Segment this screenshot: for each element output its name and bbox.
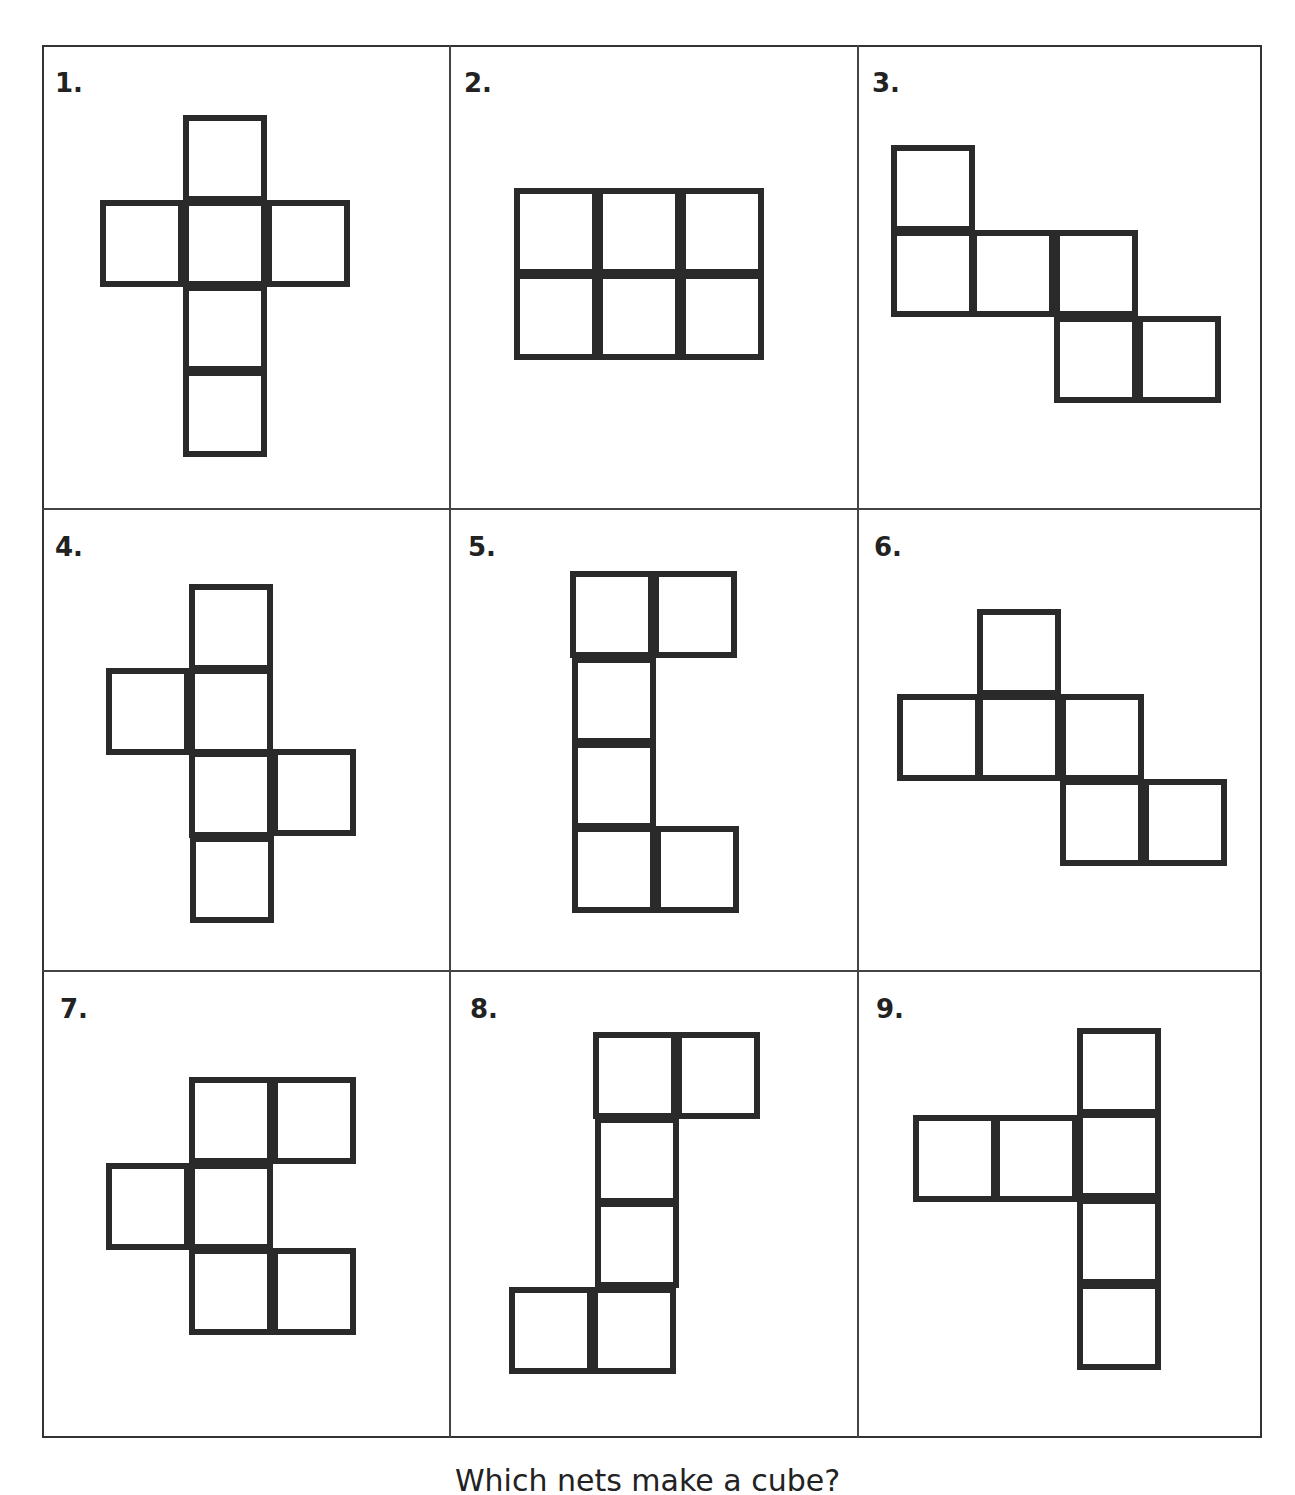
panel-label: 8. [470, 994, 498, 1024]
net-square [189, 668, 273, 755]
question-text: Which nets make a cube? [0, 1463, 1295, 1495]
panel-label: 3. [872, 68, 900, 98]
net-square [183, 370, 267, 457]
net-square [1054, 230, 1138, 317]
net-square [100, 200, 184, 287]
column-divider [857, 45, 859, 1438]
net-square [655, 826, 739, 913]
net-square [183, 200, 267, 287]
net-square [592, 1287, 676, 1374]
net-square [897, 694, 981, 781]
net-square [1137, 316, 1221, 403]
net-square [971, 230, 1055, 317]
net-square [994, 1115, 1078, 1202]
net-square [572, 742, 656, 829]
net-square [189, 584, 273, 671]
net-square [514, 188, 598, 275]
net-square [676, 1032, 760, 1119]
net-square [1054, 316, 1138, 403]
net-square [570, 571, 654, 658]
net-square [913, 1115, 997, 1202]
net-square [595, 1117, 679, 1204]
panel-label: 9. [876, 994, 904, 1024]
net-square [514, 273, 598, 360]
net-square [266, 200, 350, 287]
net-square [106, 1163, 190, 1250]
net-square [977, 609, 1061, 696]
panel-label: 2. [464, 68, 492, 98]
net-square [190, 836, 274, 923]
net-square [597, 273, 681, 360]
net-square [1077, 1112, 1161, 1199]
net-square [595, 1201, 679, 1288]
net-square [891, 145, 975, 232]
panel-label: 4. [55, 532, 83, 562]
panel-label: 6. [874, 532, 902, 562]
column-divider [449, 45, 451, 1438]
net-square [597, 188, 681, 275]
net-square [680, 273, 764, 360]
row-divider [42, 970, 1262, 972]
net-square [189, 1248, 273, 1335]
net-square [891, 230, 975, 317]
net-square [1077, 1198, 1161, 1285]
row-divider [42, 508, 1262, 510]
net-square [572, 826, 656, 913]
net-square [189, 751, 273, 838]
net-square [1060, 779, 1144, 866]
panel-label: 7. [60, 994, 88, 1024]
net-square [1143, 779, 1227, 866]
net-square [106, 668, 190, 755]
panel-label: 1. [55, 68, 83, 98]
net-square [593, 1032, 677, 1119]
net-square [272, 1077, 356, 1164]
net-square [1060, 694, 1144, 781]
net-square [189, 1163, 273, 1250]
panel-label: 5. [468, 532, 496, 562]
net-square [653, 571, 737, 658]
net-square [272, 749, 356, 836]
net-square [183, 285, 267, 372]
net-square [509, 1287, 593, 1374]
net-square [189, 1077, 273, 1164]
net-square [572, 657, 656, 744]
net-square [1077, 1283, 1161, 1370]
net-square [680, 188, 764, 275]
net-square [183, 115, 267, 202]
net-square [977, 694, 1061, 781]
net-square [272, 1248, 356, 1335]
net-square [1077, 1028, 1161, 1115]
